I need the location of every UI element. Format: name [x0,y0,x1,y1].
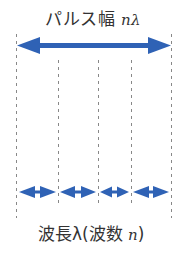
pulse-width-math: nλ [121,11,141,29]
pulse-width-arrow-icon [17,37,171,54]
wavelength-arrow-icon-1 [19,186,56,198]
wavelength-arrows [19,186,169,198]
wavelength-arrow-icon-3 [100,187,129,198]
wavelength-label: 波長λ(波数 n) [38,226,144,243]
diagram-graphics [0,0,180,261]
wave-count-math: n [128,226,138,244]
wavelength-arrow-icon-4 [133,186,169,198]
pulse-width-diagram: パルス幅 nλ 波長λ(波数 n) [0,0,180,261]
wavelength-text: 波長λ(波数 [38,224,128,244]
wavelength-arrow-icon-2 [60,186,96,198]
pulse-width-text: パルス幅 [45,9,115,29]
pulse-width-label: パルス幅 nλ [45,11,141,28]
wavelength-text-suffix: ) [138,224,145,244]
